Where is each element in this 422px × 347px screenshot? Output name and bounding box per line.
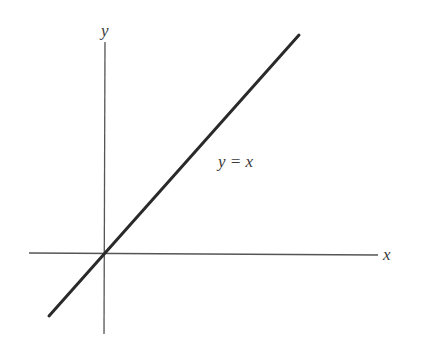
y-axis-label: y	[101, 22, 109, 39]
identity-line	[49, 35, 299, 316]
y-axis	[104, 42, 105, 334]
diagram-canvas	[0, 0, 422, 347]
x-axis-label: x	[383, 246, 391, 263]
x-axis	[29, 253, 378, 255]
line-equation-label: y = x	[218, 153, 253, 170]
